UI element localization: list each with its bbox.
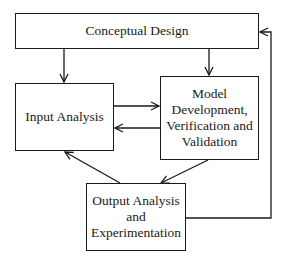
node-label-line: Output Analysis — [91, 193, 181, 209]
arrow-output-to-input — [65, 152, 120, 183]
node-label-line: and — [91, 209, 181, 225]
node-output-analysis: Output Analysis and Experimentation — [86, 183, 186, 251]
node-label-line: Validation — [166, 134, 253, 150]
node-label: Input Analysis — [25, 109, 103, 125]
node-label-line: Experimentation — [91, 225, 181, 241]
node-input-analysis: Input Analysis — [15, 83, 114, 151]
node-label-line: Verification and — [166, 118, 253, 134]
node-label-line: Model — [166, 86, 253, 102]
node-label: Conceptual Design — [85, 23, 188, 39]
node-conceptual-design: Conceptual Design — [15, 13, 259, 49]
arrow-model-to-output — [161, 160, 208, 183]
node-label-line: Development, — [166, 102, 253, 118]
node-model-development: Model Development, Verification and Vali… — [160, 76, 259, 160]
